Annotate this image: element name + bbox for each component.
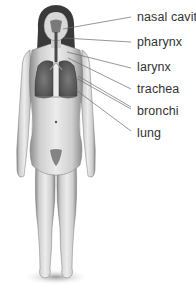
- legs: [35, 160, 76, 278]
- label-larynx: larynx: [137, 60, 171, 74]
- navel: [55, 121, 57, 123]
- respiratory-diagram: nasal cavity pharynx larynx trachea bron…: [0, 0, 196, 288]
- floor-shadow: [22, 269, 90, 285]
- label-trachea: trachea: [137, 82, 179, 96]
- label-bronchi: bronchi: [137, 104, 179, 118]
- label-nasal-cavity: nasal cavity: [137, 10, 196, 24]
- trachea-shape: [55, 32, 58, 62]
- label-lung: lung: [137, 126, 161, 140]
- label-pharynx: pharynx: [137, 35, 182, 49]
